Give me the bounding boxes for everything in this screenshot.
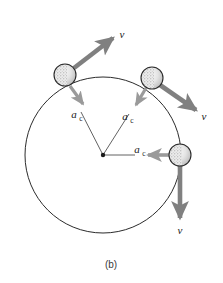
acceleration-label-ball-3: a <box>134 143 140 155</box>
velocity-label-ball-2: v <box>202 110 207 122</box>
figure-caption: (b) <box>105 259 117 270</box>
velocity-vectors <box>74 38 196 218</box>
acceleration-subscript-ball-2: c <box>130 116 134 125</box>
velocity-label-ball-1: v <box>120 28 125 40</box>
acceleration-label-ball-1: a <box>71 108 77 120</box>
ball-upper-left <box>54 64 76 86</box>
acceleration-arrow-ball-1 <box>70 86 83 104</box>
acceleration-label-ball-2: a <box>122 110 128 122</box>
acceleration-subscript-ball-3: c <box>142 149 146 158</box>
circle-center-dot <box>101 153 105 157</box>
ball-right <box>169 144 191 166</box>
acceleration-arrow-ball-2 <box>136 88 146 105</box>
velocity-label-ball-3: v <box>178 224 183 236</box>
ball-upper-right <box>141 67 163 89</box>
velocity-arrow-ball-2 <box>160 85 196 110</box>
physics-figure-circular-motion: v v v a c a c a c (b) <box>0 0 223 283</box>
velocity-arrow-ball-1 <box>74 38 113 68</box>
leader-line-ball-1 <box>81 112 103 155</box>
circular-motion-diagram: v v v a c a c a c (b) <box>0 0 223 283</box>
